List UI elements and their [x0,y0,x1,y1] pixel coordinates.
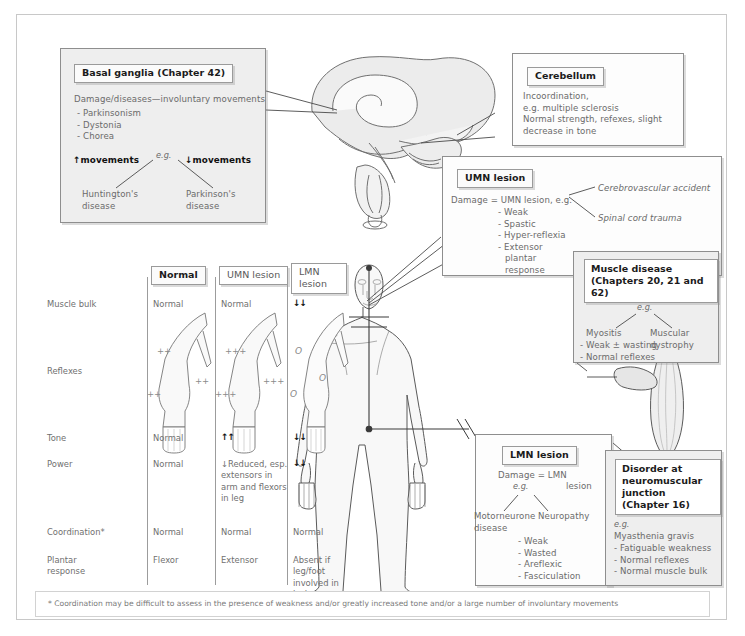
parkinsons-line1: Parkinson's [186,189,236,201]
cerebellum-line-1: Incoordination, [523,91,662,103]
cerebellum-box: Cerebellum Incoordination, e.g. multiple… [512,53,684,146]
list-item: - Wasted [518,548,581,560]
footnote-box: * Coordination may be difficult to asses… [35,591,710,617]
cell-power-umn: ↓Reduced, esp. extensors in arm and flex… [221,459,287,505]
cell-power-normal: Normal [153,459,183,470]
nmj-title: Disorder at neuromuscular junction (Chap… [615,459,721,515]
nmj-disorder-box: Disorder at neuromuscular junction (Chap… [605,450,722,586]
column-header-umn: UMN lesion [219,266,288,285]
nmj-items: - Fatiguable weakness - Normal reflexes … [614,543,711,578]
table-divider-1 [147,277,148,585]
muscular-dystrophy-line1: Muscular [650,328,694,340]
reflex-normal-upper: ++ [157,346,171,356]
lmn-lesion-box: LMN lesion Damage = LMN lesion e.g. Moto… [475,434,612,586]
cell-muscle-bulk-lmn: ↓↓ [293,298,306,308]
cell-tone-lmn: ↓↓ [293,432,306,442]
row-label-coordination: Coordination* [47,527,105,538]
plantar-line2: response [47,566,85,577]
nmj-eg: e.g. [614,519,629,529]
cell-muscle-bulk-umn: Normal [221,299,251,310]
column-header-lmn: LMN lesion [291,263,347,294]
parkinsons-disease-label: Parkinson's disease [186,189,236,212]
plantar-lmn-line1: Absent if leg/foot [293,555,347,578]
basal-ganglia-box: Basal ganglia (Chapter 42) Damage/diseas… [60,48,266,223]
power-umn-line3: arm and flexors [221,482,287,493]
nmj-title-line1: Disorder at [622,463,714,475]
power-umn-line4: in leg [221,493,287,504]
list-item: - Fatiguable weakness [614,543,711,555]
list-item: - Areflexic [518,559,581,571]
motorneurone-line1: Motorneurone [474,511,535,523]
table-divider-2 [215,277,216,585]
cerebellum-lines: Incoordination, e.g. multiple sclerosis … [523,91,662,137]
cell-tone-umn: ↑↑ [221,432,234,442]
huntingtons-disease-label: Huntington's disease [82,189,138,212]
footnote-text: * Coordination may be difficult to asses… [48,599,618,608]
cell-tone-normal: Normal [153,433,183,444]
reflex-umn-upper: +++ [225,346,246,356]
cerebellum-line-3: Normal strength, refexes, slight [523,114,662,126]
list-item: - Weak ± wasting [580,340,657,352]
parkinsons-line2: disease [186,201,236,213]
cerebellum-line-4: decrease in tone [523,126,662,138]
huntingtons-line1: Huntington's [82,189,138,201]
reflex-umn-lower: +++ [215,389,236,399]
list-item: - Normal muscle bulk [614,566,711,578]
comparison-table: Normal UMN lesion LMN lesion [47,255,347,585]
myositis-label: Myositis [586,328,622,340]
cell-coordination-lmn: Normal [293,527,323,538]
reflex-umn-mid: +++ [263,376,284,386]
power-umn-line1: ↓Reduced, esp. [221,459,287,470]
nmj-title-line2: neuromuscular [622,475,714,487]
cell-muscle-bulk-normal: Normal [153,299,183,310]
muscle-disease-box: Muscle disease (Chapters 20, 21 and 62) … [573,251,719,363]
cell-plantar-umn: Extensor [221,555,258,566]
list-item: - Normal reflexes [580,352,657,364]
diagram-page: Basal ganglia (Chapter 42) Damage/diseas… [16,14,727,620]
list-item: - Fasciculation [518,571,581,583]
cerebellum-title: Cerebellum [527,67,604,86]
cerebellum-line-2: e.g. multiple sclerosis [523,103,662,115]
lmn-items: - Weak - Wasted - Areflexic - Fasciculat… [518,536,581,582]
list-item: - Weak [518,536,581,548]
column-header-normal: Normal [151,266,206,285]
cell-plantar-normal: Flexor [153,555,178,566]
myasthenia-gravis-label: Myasthenia gravis [614,531,694,543]
reflex-normal-mid: ++ [195,376,209,386]
neuropathy-label: Neuropathy [538,511,589,523]
reflex-normal-lower: ++ [147,389,161,399]
row-label-plantar: Plantar response [47,555,85,577]
cell-power-lmn: ↓↓ [293,458,306,468]
reflex-lmn-lower: O [290,389,297,399]
list-item: - Normal reflexes [614,555,711,567]
power-umn-line2: extensors in [221,470,287,481]
muscle-disease-items: - Weak ± wasting - Normal reflexes [580,340,657,363]
reflex-lmn-upper: O [295,346,302,356]
cell-coordination-normal: Normal [153,527,183,538]
huntingtons-line2: disease [82,201,138,213]
row-label-power: Power [47,459,72,470]
table-divider-3 [287,277,288,585]
row-label-tone: Tone [47,433,66,444]
cell-coordination-umn: Normal [221,527,251,538]
plantar-line1: Plantar [47,555,85,566]
row-label-reflexes: Reflexes [47,366,82,377]
motorneurone-disease-label: Motorneurone disease [474,511,535,534]
motorneurone-line2: disease [474,523,535,535]
nmj-title-line3: junction (Chapter 16) [622,487,714,511]
row-label-muscle-bulk: Muscle bulk [47,299,96,310]
reflex-lmn-mid: O [319,373,326,383]
